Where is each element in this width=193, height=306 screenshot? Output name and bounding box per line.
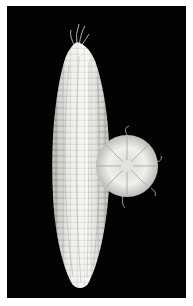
corn-photo: [7, 6, 186, 298]
corn-silk-top: [71, 24, 90, 46]
corn-illustration: [7, 6, 186, 298]
